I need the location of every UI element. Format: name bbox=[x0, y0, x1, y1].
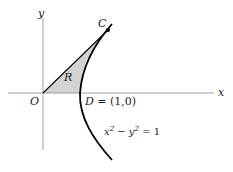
eq-rhs: = 1 bbox=[139, 126, 160, 137]
hyperbola-curve bbox=[80, 24, 112, 160]
region-r-label: R bbox=[64, 72, 72, 83]
hyperbola-diagram: y x O C R D = (1,0) x2 − y2 = 1 bbox=[0, 0, 233, 172]
y-axis-label: y bbox=[38, 8, 44, 19]
diagram-canvas bbox=[0, 0, 233, 172]
point-d-name: D bbox=[85, 95, 94, 108]
eq-minus-y: − y bbox=[114, 126, 134, 137]
x-axis-label: x bbox=[218, 87, 224, 98]
point-c bbox=[106, 28, 110, 32]
curve-equation: x2 − y2 = 1 bbox=[104, 126, 160, 137]
point-d-label: D = (1,0) bbox=[85, 96, 136, 107]
point-d-coordinates: = (1,0) bbox=[97, 95, 136, 108]
point-c-label: C bbox=[98, 18, 106, 29]
origin-label: O bbox=[30, 96, 39, 107]
